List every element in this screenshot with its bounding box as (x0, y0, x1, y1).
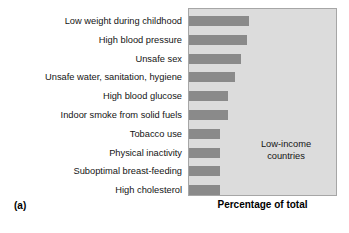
category-label: Unsafe sex (0, 54, 182, 64)
figure-panel-a: Low weight during childhood High blood p… (0, 0, 349, 233)
series-annotation: Low-income countries (241, 139, 331, 162)
panel-label: (a) (14, 200, 26, 211)
category-label: High blood glucose (0, 91, 182, 101)
category-label: Indoor smoke from solid fuels (0, 110, 182, 120)
category-label: High blood pressure (0, 35, 182, 45)
bar (189, 166, 220, 176)
plot-area: Low-income countries (188, 8, 337, 196)
category-label-column: Low weight during childhood High blood p… (0, 8, 182, 196)
bar (189, 110, 228, 120)
category-label: Tobacco use (0, 129, 182, 139)
category-label: High cholesterol (0, 185, 182, 195)
bar (189, 72, 235, 82)
bar (189, 35, 247, 45)
series-annotation-line-1: Low-income (241, 139, 331, 151)
bar (189, 91, 228, 101)
bar (189, 129, 220, 139)
bar (189, 185, 220, 195)
category-label: Low weight during childhood (0, 16, 182, 26)
x-axis-title: Percentage of total (188, 199, 337, 210)
category-label: Physical inactivity (0, 148, 182, 158)
bar (189, 16, 249, 26)
series-annotation-line-2: countries (241, 151, 331, 163)
bar (189, 54, 241, 64)
bar (189, 148, 220, 158)
category-label: Unsafe water, sanitation, hygiene (0, 72, 182, 82)
category-label: Suboptimal breast-feeding (0, 166, 182, 176)
